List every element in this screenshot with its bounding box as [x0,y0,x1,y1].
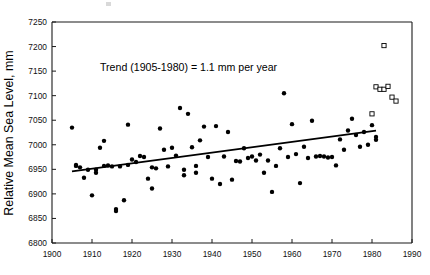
trend-annotation-label: Trend (1905-1980) = 1.1 mm per year [100,61,278,73]
x-axis-ticks: 1900191019201930194019501960197019801990 [43,239,422,259]
data-point [374,138,378,142]
data-point [266,158,270,162]
data-point [366,143,370,147]
data-point [234,159,238,163]
x-tick-label: 1990 [403,249,422,259]
y-tick-label: 7200 [28,42,47,52]
y-tick-label: 6800 [28,238,47,248]
data-point [346,128,350,132]
data-point [290,122,294,126]
data-point [142,155,146,159]
data-point [270,190,274,194]
data-point [302,145,306,149]
data-point [226,130,230,134]
data-point [70,125,74,129]
data-point [194,164,198,168]
y-tick-label: 6950 [28,164,47,174]
x-tick-label: 1930 [163,249,182,259]
data-point [122,198,126,202]
data-point [278,146,282,150]
data-point [178,106,182,110]
data-point [330,155,334,159]
data-point-open [382,43,386,47]
data-point [350,117,354,121]
data-point [246,156,250,160]
data-point [338,137,342,141]
y-tick-label: 7100 [28,91,47,101]
data-point [314,154,318,158]
scatter-points-open [370,43,398,115]
data-point [90,193,94,197]
y-tick-label: 6900 [28,189,47,199]
scatter-points-filled [70,91,378,213]
y-tick-label: 7150 [28,66,47,76]
data-point [254,158,258,162]
data-point [250,154,254,158]
data-point [334,163,338,167]
y-tick-label: 6850 [28,213,47,223]
data-point [126,122,130,126]
data-point-open [370,112,374,116]
data-point [190,145,194,149]
data-point-open [386,84,390,88]
x-tick-label: 1910 [83,249,102,259]
data-point-open [394,99,398,103]
data-point [370,123,374,127]
data-point [342,147,346,151]
x-tick-label: 1950 [243,249,262,259]
data-point [94,171,98,175]
data-point [358,145,362,149]
data-point [306,156,310,160]
y-axis-title-label: Relative Mean Sea Level, mm [2,50,16,215]
data-point [150,165,154,169]
data-point [154,166,158,170]
data-point [194,171,198,175]
data-point [78,165,82,169]
data-point [210,176,214,180]
chart-canvas: Relative Mean Sea Level, mm 680068506900… [0,0,430,275]
y-tick-label: 7000 [28,140,47,150]
data-point [98,146,102,150]
x-tick-label: 1960 [283,249,302,259]
data-point [322,154,326,158]
x-tick-label: 1920 [123,249,142,259]
data-point [282,91,286,95]
x-tick-label: 1900 [43,249,62,259]
data-point [262,171,266,175]
trend-line [72,131,376,172]
y-tick-label: 7050 [28,115,47,125]
data-point [274,164,278,168]
data-point [170,146,174,150]
data-point [286,155,290,159]
data-point [182,168,186,172]
data-point [158,126,162,130]
data-point [206,155,210,159]
top-artifact-mark [106,2,111,6]
data-point [114,209,118,213]
data-point [214,124,218,128]
data-point [310,119,314,123]
data-point [150,186,154,190]
data-point [198,138,202,142]
data-point [326,155,330,159]
data-point [218,182,222,186]
x-tick-label: 1940 [203,249,222,259]
data-point [202,124,206,128]
data-point [162,147,166,151]
sea-level-chart-figure: Relative Mean Sea Level, mm 680068506900… [0,0,430,275]
data-point [166,164,170,168]
data-point [130,157,134,161]
data-point [186,112,190,116]
y-axis-title: Relative Mean Sea Level, mm [2,50,16,215]
y-tick-label: 7250 [28,17,47,27]
data-point [74,163,78,167]
data-point [222,154,226,158]
data-point [318,154,322,158]
data-point [238,159,242,163]
data-point [146,176,150,180]
data-point [230,177,234,181]
data-point [138,154,142,158]
x-tick-label: 1970 [323,249,342,259]
x-tick-label: 1980 [363,249,382,259]
data-point [182,173,186,177]
